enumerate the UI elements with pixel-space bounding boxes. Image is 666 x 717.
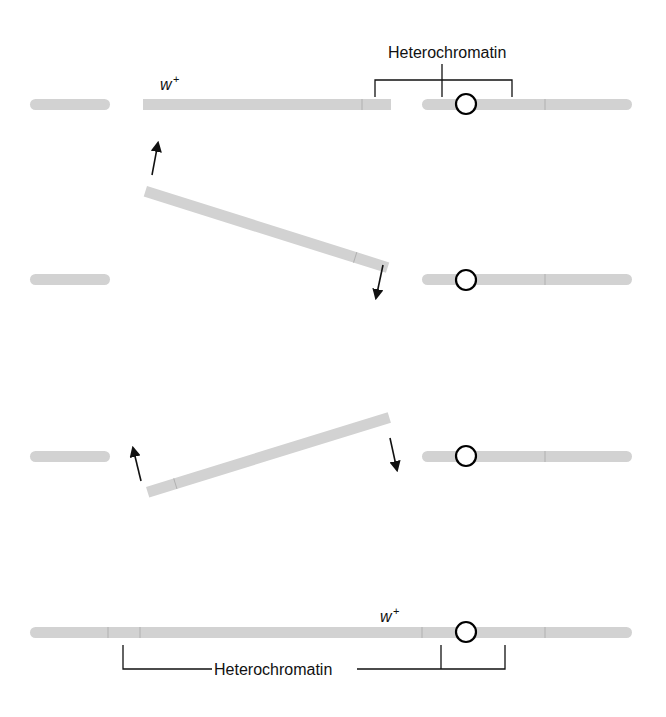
gene-label-superscript: + — [393, 605, 399, 617]
chromosome-right-arm — [422, 99, 632, 110]
row-original-chromosome: w + Heterochromatin — [30, 44, 632, 175]
centromere-icon — [456, 94, 476, 114]
row-segment-reinserting — [30, 412, 632, 497]
gene-label-w: w — [160, 76, 173, 93]
chromosome-w-segment — [143, 99, 391, 110]
gene-label-w: w — [380, 608, 393, 625]
chromosome-left-arm — [30, 451, 110, 462]
arrow-down-icon — [390, 438, 397, 470]
inversion-diagram: w + Heterochromatin — [0, 0, 666, 717]
row-inverted-chromosome: w + Heterochromatin — [30, 605, 632, 678]
heterochromatin-label-bottom: Heterochromatin — [214, 661, 332, 678]
excised-segment-1 — [144, 186, 390, 273]
heterochromatin-bracket-top — [375, 64, 512, 97]
centromere-icon — [456, 622, 476, 642]
chromosome-left-arm — [30, 274, 110, 285]
heterochromatin-label-top: Heterochromatin — [388, 44, 506, 61]
centromere-icon — [456, 446, 476, 466]
chromosome-right-arm — [422, 451, 632, 462]
excised-segment-2 — [146, 412, 391, 497]
chromosome-right-arm — [422, 274, 632, 285]
chromosome-left-arm — [30, 99, 110, 110]
arrow-up-icon — [152, 143, 158, 175]
gene-label-superscript: + — [173, 73, 179, 85]
row-segment-rotating — [30, 186, 632, 298]
inverted-chromosome — [30, 627, 632, 638]
centromere-icon — [456, 270, 476, 290]
arrow-up-icon — [133, 448, 141, 481]
